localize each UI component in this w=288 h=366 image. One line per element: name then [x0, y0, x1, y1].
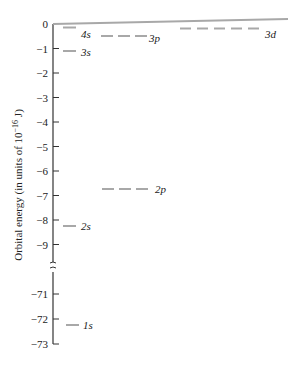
level-label-2p: 2p: [155, 183, 167, 195]
level-label-3s: 3s: [80, 46, 91, 58]
level-label-3p: 3p: [148, 32, 161, 44]
tick-label: −71: [31, 288, 48, 300]
upper-ticks: [53, 49, 59, 245]
tick-label: −9: [36, 239, 48, 251]
tick-label: −72: [31, 313, 48, 325]
tick-label: −3: [36, 92, 48, 104]
tick-label: −5: [36, 141, 48, 153]
level-label-1s: 1s: [83, 319, 93, 331]
orbital-energy-diagram: 0 −1 −2 −3 −4 −5 −6 −7 −8 −9 −71 −72 −73…: [0, 0, 288, 366]
y-axis-title: Orbital energy (in units of 10−16 J): [11, 109, 25, 261]
tick-label: −2: [36, 67, 48, 79]
tick-label: 0: [43, 18, 49, 30]
level-label-2s: 2s: [81, 220, 91, 232]
level-label-4s: 4s: [81, 28, 91, 40]
tick-label: −73: [31, 338, 49, 350]
axis-break-icon: [50, 262, 56, 268]
tick-label: −7: [36, 190, 48, 202]
lower-ticks: [53, 294, 59, 344]
zero-energy-line: [53, 19, 288, 24]
tick-label: −1: [36, 43, 48, 55]
tick-label: −8: [36, 214, 48, 226]
tick-label: −4: [36, 116, 48, 128]
level-label-3d: 3d: [264, 28, 277, 40]
tick-label: −6: [36, 165, 48, 177]
energy-levels: [63, 28, 259, 326]
